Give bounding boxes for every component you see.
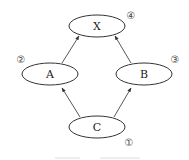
node-a-label: A (45, 68, 55, 81)
node-a-order: ② (17, 54, 26, 65)
diagram-canvas: X ④ A ② B ③ C ① (0, 0, 189, 160)
edge-a-to-x (62, 36, 79, 63)
node-x-order: ④ (127, 10, 136, 21)
node-c: C ① (69, 116, 133, 148)
node-x: X ④ (69, 10, 135, 38)
node-b: B ③ (116, 54, 179, 86)
node-x-label: X (93, 20, 101, 33)
node-b-order: ③ (171, 54, 180, 65)
edge-c-to-a (62, 88, 80, 117)
node-b-label: B (140, 68, 148, 81)
node-c-label: C (93, 121, 101, 134)
node-c-order: ① (125, 137, 134, 148)
edge-b-to-x (115, 36, 131, 63)
node-a: A ② (17, 54, 78, 86)
edge-c-to-b (114, 88, 131, 117)
